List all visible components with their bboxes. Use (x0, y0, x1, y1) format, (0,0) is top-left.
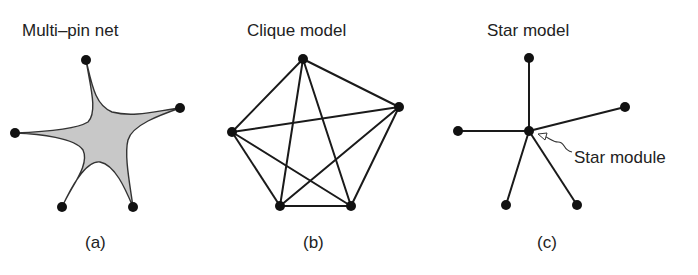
pin-node (227, 127, 237, 137)
star-edges (458, 58, 625, 205)
panel-c-caption: (c) (537, 233, 557, 252)
clique-edges (232, 59, 399, 206)
pin-node (275, 201, 285, 211)
panel-c-star-model: Star model Star module (c) (453, 21, 666, 252)
pin-node (501, 200, 511, 210)
panel-b-caption: (b) (303, 233, 324, 252)
pin-node (128, 202, 138, 212)
panel-a-title: Multi–pin net (22, 21, 119, 40)
pin-node (10, 128, 20, 138)
panel-a-caption: (a) (85, 233, 106, 252)
pin-node (524, 53, 534, 63)
pin-node (81, 55, 91, 65)
net-models-diagram: Multi–pin net (a) Clique model (b) (0, 0, 698, 275)
panel-c-title: Star model (487, 21, 569, 40)
pin-node (175, 103, 185, 113)
star-module-arrow (538, 133, 572, 152)
star-module-node (524, 126, 534, 136)
pin-node (298, 54, 308, 64)
pin-node (394, 102, 404, 112)
pin-node (346, 201, 356, 211)
panel-b-clique-model: Clique model (b) (227, 21, 404, 252)
star-module-label: Star module (574, 148, 666, 167)
pin-node (620, 102, 630, 112)
multi-pin-net-shape (15, 60, 180, 207)
pin-node (572, 200, 582, 210)
pin-node (57, 202, 67, 212)
pin-node (453, 126, 463, 136)
panel-b-title: Clique model (247, 21, 346, 40)
panel-a-multi-pin-net: Multi–pin net (a) (10, 21, 185, 252)
